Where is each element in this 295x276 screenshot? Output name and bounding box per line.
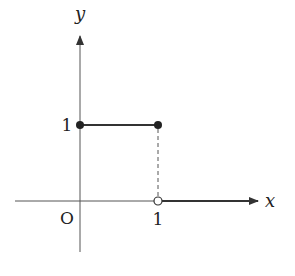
origin-label: O: [60, 208, 74, 228]
closed-point-0-1: [76, 121, 84, 129]
y-tick-label-1: 1: [62, 115, 73, 135]
x-axis-label: x: [265, 190, 275, 211]
open-point-1-0: [154, 197, 162, 205]
function-graph: y x O 1 1: [0, 0, 295, 276]
x-tick-label-1: 1: [153, 209, 164, 229]
closed-point-1-1: [154, 121, 162, 129]
y-axis-label: y: [74, 3, 86, 24]
